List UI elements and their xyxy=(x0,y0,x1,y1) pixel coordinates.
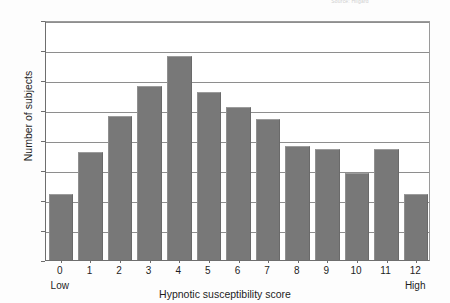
figure-canvas: Source: Hilgard Number of subjects 01020… xyxy=(0,0,450,303)
bar-slot xyxy=(194,22,224,260)
bar xyxy=(78,152,103,260)
y-axis-tick-mark xyxy=(41,51,45,52)
x-axis-tick-mark xyxy=(61,260,62,263)
bar-series xyxy=(46,22,429,260)
y-axis-tick-mark xyxy=(41,231,45,232)
y-axis-tick-mark xyxy=(41,141,45,142)
bar-slot xyxy=(105,22,135,260)
bar xyxy=(197,92,222,260)
bar-slot xyxy=(135,22,165,260)
x-axis-tick-mark xyxy=(120,260,121,263)
y-axis-tick-mark xyxy=(41,201,45,202)
bar xyxy=(374,149,399,260)
bar xyxy=(315,149,340,260)
bar xyxy=(404,194,429,260)
x-axis-tick-mark xyxy=(327,260,328,263)
x-axis-tick-mark xyxy=(90,260,91,263)
bar xyxy=(108,116,133,260)
bar-slot xyxy=(401,22,431,260)
bar xyxy=(137,86,162,260)
bar-slot xyxy=(342,22,372,260)
x-axis-tick-mark xyxy=(268,260,269,263)
bar xyxy=(345,173,370,260)
x-axis-tick-mark xyxy=(209,260,210,263)
y-axis-tick-mark xyxy=(41,21,45,22)
x-axis-tick-mark xyxy=(387,260,388,263)
y-axis-tick-mark xyxy=(41,171,45,172)
x-axis-tick-mark xyxy=(357,260,358,263)
bar-slot xyxy=(253,22,283,260)
bar xyxy=(256,119,281,260)
y-axis-tick-mark xyxy=(41,81,45,82)
x-axis-tick-mark xyxy=(239,260,240,263)
bar-slot xyxy=(283,22,313,260)
x-axis-tick-mark xyxy=(150,260,151,263)
bar-slot xyxy=(313,22,343,260)
bar-slot xyxy=(224,22,254,260)
bar-slot xyxy=(46,22,76,260)
plot-area xyxy=(45,21,430,261)
source-credit-text: Source: Hilgard xyxy=(290,0,410,6)
y-axis-tick-mark xyxy=(41,111,45,112)
x-axis-tick-mark xyxy=(298,260,299,263)
bar xyxy=(226,107,251,260)
x-axis-tick-mark xyxy=(179,260,180,263)
bar xyxy=(285,146,310,260)
bar xyxy=(167,56,192,260)
y-axis-title: Number of subjects xyxy=(22,26,34,206)
bar xyxy=(49,194,74,260)
x-axis-tick-mark xyxy=(416,260,417,263)
x-axis-tick-label: 12 xyxy=(395,265,435,276)
x-axis-title: Hypnotic susceptibility score xyxy=(0,288,450,300)
bar-slot xyxy=(372,22,402,260)
bar-slot xyxy=(76,22,106,260)
y-axis-tick-mark xyxy=(41,261,45,262)
bar-slot xyxy=(164,22,194,260)
